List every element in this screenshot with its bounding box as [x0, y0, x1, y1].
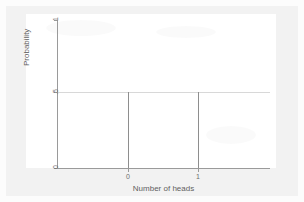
x-tick-label-0: 0: [118, 173, 138, 181]
plot-canvas: [26, 14, 276, 168]
gridline-y-0.5: [57, 92, 270, 93]
x-axis-title: Number of heads: [57, 184, 270, 193]
spike-bar: [198, 92, 199, 168]
y-axis-title: Probability: [22, 29, 31, 66]
chart-screenshot: 1 .5 0 0 1 Number of heads Probability: [0, 0, 304, 202]
y-tick-label-0: 0: [52, 165, 60, 185]
y-tick-label-1: 1: [52, 17, 60, 37]
x-tick-mark: [128, 169, 129, 172]
x-tick-mark: [198, 169, 199, 172]
x-tick-label-1: 1: [188, 173, 208, 181]
spike-bar: [128, 92, 129, 168]
y-tick-label-0.5: .5: [52, 89, 60, 109]
x-axis-line: [57, 168, 270, 169]
